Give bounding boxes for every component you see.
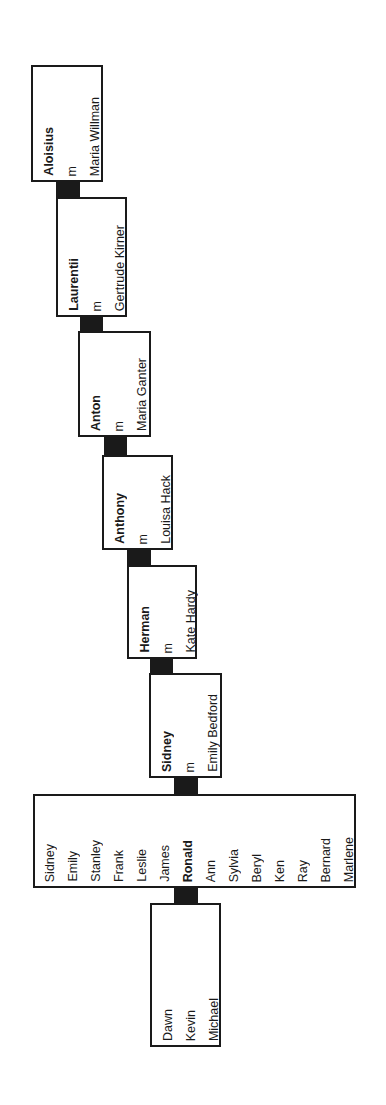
child-name: Ann: [199, 860, 222, 882]
person-name: Laurentii: [62, 258, 85, 311]
marriage-label: m: [156, 643, 179, 653]
grandchild-name: Kevin: [179, 1010, 202, 1041]
children-box: Sidney Emily Stanley Frank Leslie James …: [33, 794, 356, 888]
child-name: Emily: [61, 851, 84, 882]
grandchild-name: Dawn: [156, 1009, 179, 1041]
person-box-laurentii: Laurentii m Gertrude Kirner: [56, 197, 127, 317]
descent-connector: [174, 888, 198, 903]
marriage-label: m: [85, 301, 108, 311]
person-box-anthony: Anthony m Louisa Hack: [102, 455, 173, 550]
person-name: Anton: [84, 395, 107, 431]
descent-connector: [56, 182, 80, 197]
descent-connector: [104, 437, 127, 455]
child-name: Frank: [107, 850, 130, 882]
spouse-name: Gertrude Kirner: [108, 225, 131, 311]
person-box-sidney: Sidney m Emily Bedford: [149, 673, 222, 778]
descent-connector: [127, 550, 151, 565]
spouse-name: Maria Willman: [83, 97, 106, 176]
child-name: Ken: [268, 860, 291, 882]
child-name: Leslie: [130, 849, 153, 882]
child-name: Bernard: [314, 838, 337, 882]
spouse-name: Louisa Hack: [154, 475, 177, 544]
person-name: Sidney: [155, 731, 178, 772]
child-name: Beryl: [245, 854, 268, 882]
marriage-label: m: [60, 166, 83, 176]
child-name-highlighted: Ronald: [176, 840, 199, 882]
child-name: Sidney: [38, 844, 61, 882]
person-name: Aloisius: [37, 127, 60, 176]
descent-connector: [174, 778, 198, 794]
marriage-label: m: [131, 534, 154, 544]
grandchildren-box: Dawn Kevin Michael: [150, 903, 221, 1047]
child-name: James: [153, 845, 176, 882]
grandchild-name: Michael: [202, 998, 225, 1041]
child-name: Stanley: [84, 840, 107, 882]
child-name: Ray: [291, 860, 314, 882]
child-name: Marlene: [337, 837, 360, 882]
person-name: Herman: [133, 606, 156, 653]
spouse-name: Emily Bedford: [201, 694, 224, 772]
spouse-name: Kate Hardy: [179, 590, 202, 653]
marriage-label: m: [178, 762, 201, 772]
marriage-label: m: [107, 421, 130, 431]
person-box-anton: Anton m Maria Ganter: [78, 331, 151, 437]
spouse-name: Maria Ganter: [130, 358, 153, 431]
person-box-herman: Herman m Kate Hardy: [127, 565, 197, 659]
descent-connector: [80, 317, 103, 331]
descent-connector: [150, 659, 173, 673]
child-name: Sylvia: [222, 849, 245, 882]
person-name: Anthony: [108, 493, 131, 544]
person-box-aloisius: Aloisius m Maria Willman: [31, 65, 103, 182]
